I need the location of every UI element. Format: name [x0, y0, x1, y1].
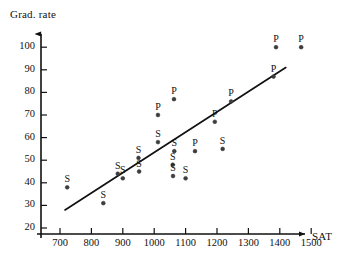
y-tick-label: 100	[9, 40, 35, 51]
axes	[37, 34, 305, 238]
data-point-marker	[299, 45, 303, 49]
data-point-label: P	[189, 137, 201, 148]
y-tick-label: 30	[9, 198, 35, 209]
data-point-label: P	[270, 33, 282, 44]
data-point-marker	[221, 147, 225, 151]
data-point-label: P	[225, 87, 237, 98]
data-point-marker	[156, 140, 160, 144]
data-point-label: S	[168, 137, 180, 148]
data-point-label: P	[209, 108, 221, 119]
data-point-marker	[172, 97, 176, 101]
data-point-label: P	[168, 85, 180, 96]
data-point-marker	[229, 100, 233, 104]
data-point-marker	[156, 113, 160, 117]
data-point-marker	[65, 185, 69, 189]
data-point-label: P	[295, 33, 307, 44]
data-point-label: S	[61, 173, 73, 184]
data-point-marker	[193, 149, 197, 153]
y-axis-title: Grad. rate	[10, 8, 56, 20]
data-point-label: S	[133, 158, 145, 169]
data-point-label: S	[97, 189, 109, 200]
y-tick-label: 50	[9, 153, 35, 164]
y-tick-label: 90	[9, 63, 35, 74]
data-point-marker	[274, 45, 278, 49]
data-point-marker	[121, 176, 125, 180]
data-point-label: S	[180, 164, 192, 175]
y-tick-label: 70	[9, 108, 35, 119]
data-point-label: S	[167, 162, 179, 173]
data-point-marker	[184, 176, 188, 180]
data-point-label: P	[268, 63, 280, 74]
scatter-plot-figure: Grad. rate SAT 2030405060708090100700800…	[0, 0, 349, 275]
y-tick-label: 20	[9, 221, 35, 232]
data-point-marker	[171, 174, 175, 178]
y-tick-label: 60	[9, 131, 35, 142]
data-point-label: S	[217, 135, 229, 146]
data-point-label: S	[167, 151, 179, 162]
x-tick-label: 1500	[291, 237, 331, 248]
data-point-marker	[101, 201, 105, 205]
data-point-label: S	[152, 128, 164, 139]
data-point-label: S	[117, 164, 129, 175]
y-tick-label: 80	[9, 85, 35, 96]
data-point-label: P	[152, 101, 164, 112]
data-point-label: S	[133, 144, 145, 155]
data-point-marker	[137, 170, 141, 174]
y-tick-label: 40	[9, 176, 35, 187]
data-point-marker	[272, 75, 276, 79]
data-point-marker	[213, 120, 217, 124]
